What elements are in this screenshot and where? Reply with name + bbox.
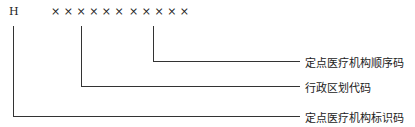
region-connector-horizontal [81, 86, 300, 87]
label-region-code: 行政区划代码 [305, 79, 371, 95]
sequence-code-placeholder: × × × × × [129, 5, 189, 18]
label-institution-id: 定点医疗机构标识码 [305, 109, 404, 125]
region-code-placeholder: × × × × × × [51, 5, 124, 18]
label-sequence-code: 定点医疗机构顺序码 [305, 54, 404, 70]
sequence-connector-vertical [153, 26, 154, 62]
prefix-connector-horizontal [13, 116, 300, 117]
region-connector-vertical [81, 26, 82, 87]
prefix-connector-vertical [13, 26, 14, 117]
code-prefix: H [9, 5, 19, 18]
sequence-connector-horizontal [153, 61, 300, 62]
